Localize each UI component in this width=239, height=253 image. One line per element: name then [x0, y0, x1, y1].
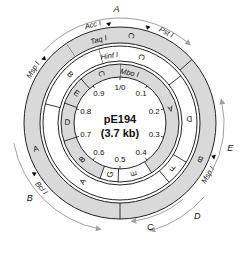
scale-tick: [161, 109, 164, 110]
transcript-label: E: [227, 143, 234, 153]
plasmid-size: (3.7 kb): [101, 127, 140, 139]
scale-label: 0.6: [93, 148, 105, 157]
scale-label: 0.1: [136, 89, 148, 98]
scale-label: 0.2: [149, 107, 161, 116]
scale-label: 0.4: [136, 148, 148, 157]
fragment-label: D: [186, 114, 193, 123]
scale-tick: [161, 136, 164, 137]
scale-tick: [93, 158, 95, 160]
plasmid-name: pE194: [104, 113, 137, 125]
scale-label: 0.9: [93, 89, 105, 98]
scale-tick: [145, 86, 147, 88]
scale-tick: [76, 109, 79, 110]
scale-label: 0.3: [149, 130, 161, 139]
transcript-label: A: [112, 4, 119, 14]
scale-label: 0.5: [114, 155, 126, 164]
site-marker-icon: [106, 22, 111, 27]
site-marker-icon: [145, 25, 151, 30]
scale-label: 1/0: [114, 83, 126, 92]
scale-tick: [93, 86, 95, 88]
transcript-label: D: [194, 211, 201, 221]
scale-tick: [145, 158, 147, 160]
scale-label: 0.7: [80, 130, 92, 139]
scale-tick: [76, 136, 79, 137]
fragment-label: D: [65, 118, 71, 127]
transcript-label: B: [27, 193, 33, 203]
plasmid-map: AEGBDECCDFABCBA 1/00.10.20.30.40.50.60.7…: [0, 0, 239, 253]
transcript-label: C: [147, 222, 154, 232]
scale-label: 0.8: [80, 107, 92, 116]
